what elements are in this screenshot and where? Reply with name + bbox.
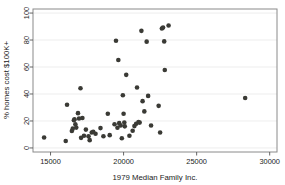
data-point bbox=[139, 29, 144, 34]
data-point bbox=[166, 23, 171, 28]
data-point bbox=[149, 123, 154, 128]
data-point bbox=[116, 58, 121, 63]
data-point bbox=[101, 134, 106, 139]
data-point bbox=[124, 73, 129, 78]
y-tick-label-80: 80 bbox=[22, 36, 31, 44]
scatter-plot-figure: 15000200002500030000 020406080100 1979 M… bbox=[0, 0, 285, 185]
data-point bbox=[144, 39, 149, 44]
data-point bbox=[74, 125, 79, 130]
x-tick-label-25000: 25000 bbox=[186, 157, 207, 166]
data-point bbox=[142, 109, 147, 114]
data-point bbox=[87, 138, 92, 143]
data-point bbox=[78, 86, 83, 91]
y-tick-label-100: 100 bbox=[22, 7, 31, 19]
data-point bbox=[106, 111, 111, 116]
data-point bbox=[162, 39, 167, 44]
data-point bbox=[158, 130, 163, 135]
y-tick-label-20: 20 bbox=[22, 117, 31, 125]
y-tick-label-0: 0 bbox=[22, 146, 31, 150]
data-point bbox=[63, 139, 68, 144]
data-point bbox=[42, 135, 47, 140]
data-point bbox=[65, 102, 70, 107]
data-point bbox=[118, 123, 123, 128]
data-point bbox=[72, 117, 77, 122]
data-point bbox=[82, 134, 87, 139]
x-axis-title: 1979 Median Family Inc. bbox=[113, 173, 198, 182]
data-point bbox=[156, 104, 161, 109]
data-point bbox=[93, 131, 98, 136]
x-tick-label-30000: 30000 bbox=[259, 157, 280, 166]
data-point bbox=[98, 126, 103, 131]
data-point bbox=[112, 122, 117, 127]
data-point bbox=[161, 25, 166, 30]
data-point bbox=[80, 116, 85, 121]
data-point bbox=[107, 133, 112, 138]
y-tick-label-40: 40 bbox=[22, 90, 31, 98]
x-tick-label-20000: 20000 bbox=[113, 157, 134, 166]
data-point bbox=[146, 94, 151, 99]
data-point bbox=[130, 128, 135, 133]
data-point bbox=[84, 127, 89, 132]
y-axis-title: % homes cost $100K+ bbox=[2, 40, 11, 119]
plot-canvas: 15000200002500030000 020406080100 1979 M… bbox=[0, 0, 285, 185]
data-point bbox=[76, 111, 81, 116]
grid-lines bbox=[33, 13, 277, 148]
data-point bbox=[121, 111, 126, 116]
x-tick-label-15000: 15000 bbox=[40, 157, 61, 166]
y-axis-ticks: 020406080100 bbox=[22, 7, 33, 150]
y-tick-label-60: 60 bbox=[22, 63, 31, 71]
data-point bbox=[127, 134, 132, 139]
x-axis-ticks: 15000200002500030000 bbox=[40, 152, 280, 166]
data-point bbox=[135, 85, 140, 90]
data-point bbox=[122, 124, 127, 129]
data-point bbox=[137, 120, 142, 125]
data-point bbox=[140, 99, 145, 104]
data-point bbox=[121, 93, 126, 98]
data-point bbox=[120, 136, 125, 141]
data-points bbox=[42, 23, 248, 143]
data-point bbox=[162, 68, 167, 73]
data-point bbox=[114, 38, 119, 43]
data-point bbox=[243, 96, 248, 101]
